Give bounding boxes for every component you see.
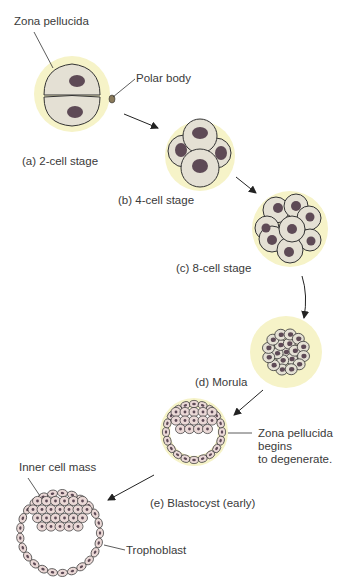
inner-cell-mass-leader-line <box>28 478 40 496</box>
morula <box>250 316 322 388</box>
stage-c-label: (c) 8-cell stage <box>176 262 251 275</box>
stage-b-label: (b) 4-cell stage <box>118 194 194 207</box>
eight-cell-embryo <box>252 191 328 267</box>
zona-leader-line <box>34 32 53 68</box>
zona-degenerate-label-1: Zona pellucida <box>258 427 333 440</box>
late-blastocyst <box>16 489 103 577</box>
stage-e-label: (e) Blastocyst (early) <box>150 497 255 510</box>
trophoblast-label: Trophoblast <box>126 544 186 557</box>
early-blastocyst <box>160 398 228 466</box>
four-cell-embryo <box>165 119 235 191</box>
zona-degenerate-label-3: to degenerate. <box>258 453 332 466</box>
polar-body-label: Polar body <box>136 72 191 85</box>
two-cell-embryo <box>34 56 115 132</box>
polar-body-leader-line <box>113 79 135 97</box>
zona-degenerate-label-2: begins <box>258 440 292 453</box>
trophoblast-leader-line <box>104 545 125 550</box>
stage-d-label: (d) Morula <box>195 376 247 389</box>
inner-cell-mass-label: Inner cell mass <box>19 461 96 474</box>
stage-a-label: (a) 2-cell stage <box>22 155 98 168</box>
zona-pellucida-label: Zona pellucida <box>14 15 89 28</box>
